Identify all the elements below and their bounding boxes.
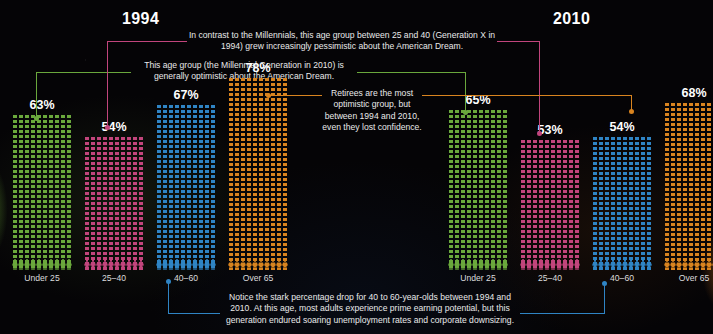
value-label: 54%	[592, 120, 652, 134]
person-icon-column	[109, 137, 113, 270]
connector-millennial-right	[465, 72, 466, 112]
connector-millennial-left	[36, 72, 131, 73]
person-icon-column	[199, 105, 203, 270]
person-icon-column	[593, 137, 597, 270]
person-icon-column	[121, 137, 125, 270]
person-icon-column	[695, 103, 699, 270]
person-icon-column	[85, 137, 89, 270]
person-icon-row	[228, 259, 288, 270]
connector-genx-right	[497, 41, 539, 42]
person-icon-column	[551, 140, 555, 270]
person-icon	[574, 259, 580, 270]
year-header-2010: 2010	[553, 10, 590, 28]
person-icon-column	[449, 110, 453, 270]
person-icon-column	[521, 140, 525, 270]
person-icon-column	[247, 78, 251, 270]
annotation-retirees: Retirees are the most optimistic group, …	[322, 88, 422, 134]
person-icon-column	[139, 137, 143, 270]
category-label: 40–60	[150, 273, 222, 283]
bar-1994-40-60	[156, 105, 216, 270]
person-icon-column	[187, 105, 191, 270]
person-icon-column	[97, 137, 101, 270]
category-label: Under 25	[6, 273, 78, 283]
person-icon-column	[283, 78, 287, 270]
bar-1994-over-65	[228, 78, 288, 270]
person-icon-column	[479, 110, 483, 270]
connector-dot-54-1994	[105, 125, 110, 130]
person-icon	[282, 259, 288, 270]
person-icon-column	[611, 137, 615, 270]
person-icon-column	[617, 137, 621, 270]
person-icon-column	[689, 103, 693, 270]
person-icon-column	[115, 137, 119, 270]
person-icon-column	[569, 140, 573, 270]
person-icon-column	[635, 137, 639, 270]
person-icon-column	[169, 105, 173, 270]
person-icon-column	[599, 137, 603, 270]
person-icon-row	[84, 259, 144, 270]
person-icon-row	[448, 259, 508, 270]
person-icon	[646, 259, 652, 270]
infographic-canvas: 1994 2010 In contrast to the Millennials…	[0, 0, 713, 334]
person-icon-row	[12, 259, 72, 270]
connector-retirees-left	[268, 95, 322, 96]
person-icon-column	[253, 78, 257, 270]
person-icon-column	[19, 115, 23, 270]
person-icon-column	[503, 110, 507, 270]
person-icon	[138, 259, 144, 270]
person-icon-column	[61, 115, 65, 270]
person-icon-column	[91, 137, 95, 270]
person-icon-column	[103, 137, 107, 270]
category-label: Over 65	[222, 273, 294, 283]
person-icon-column	[265, 78, 269, 270]
bar-2010-under-25	[448, 110, 508, 270]
connector-dot-68	[629, 109, 634, 114]
person-icon-column	[163, 105, 167, 270]
person-icon-column	[641, 137, 645, 270]
person-icon-column	[563, 140, 567, 270]
person-icon-column	[235, 78, 239, 270]
person-icon-column	[229, 78, 233, 270]
connector-dot-65	[463, 110, 468, 115]
person-icon-column	[241, 78, 245, 270]
person-icon-column	[473, 110, 477, 270]
person-icon-row	[156, 259, 216, 270]
person-icon-column	[455, 110, 459, 270]
year-header-1994: 1994	[122, 10, 159, 28]
value-label: 53%	[520, 123, 580, 137]
person-icon-column	[605, 137, 609, 270]
category-label: 25–40	[78, 273, 150, 283]
bar-1994-under-25	[12, 115, 72, 270]
person-icon-column	[25, 115, 29, 270]
connector-millennial-left	[36, 72, 37, 118]
bar-2010-over-65	[664, 103, 713, 270]
person-icon-column	[37, 115, 41, 270]
person-icon-column	[55, 115, 59, 270]
connector-bottom-right	[520, 313, 605, 314]
person-icon-column	[133, 137, 137, 270]
person-icon-row	[664, 259, 713, 270]
person-icon-column	[157, 105, 161, 270]
value-label: 67%	[156, 88, 216, 102]
value-label: 63%	[12, 98, 72, 112]
person-icon-column	[13, 115, 17, 270]
person-icon-column	[575, 140, 579, 270]
person-icon-column	[701, 103, 705, 270]
value-label: 68%	[664, 86, 713, 100]
category-label: Under 25	[442, 273, 514, 283]
annotation-generation-x: In contrast to the Millennials, this age…	[186, 30, 498, 53]
person-icon-column	[31, 115, 35, 270]
person-icon-column	[533, 140, 537, 270]
connector-dot-53	[537, 131, 542, 136]
connector-dot-78	[266, 93, 271, 98]
person-icon-column	[557, 140, 561, 270]
connector-bottom-left	[168, 313, 220, 314]
connector-dot-63	[34, 116, 39, 121]
person-icon-column	[677, 103, 681, 270]
category-label: 40–60	[586, 273, 658, 283]
person-icon-column	[49, 115, 53, 270]
person-icon-column	[647, 137, 651, 270]
person-icon-column	[193, 105, 197, 270]
person-icon-column	[461, 110, 465, 270]
person-icon-column	[707, 103, 711, 270]
